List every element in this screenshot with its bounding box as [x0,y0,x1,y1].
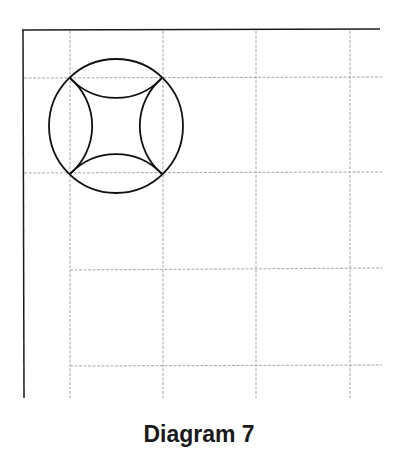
grid-horizontal-2 [24,172,382,173]
grid-horizontal-4 [70,365,382,366]
diagram-caption: Diagram 7 [0,421,398,448]
frame-left-line [23,30,24,398]
grid-horizontal-1 [24,77,382,78]
diagram-canvas [0,0,398,464]
grid-horizontal-3 [70,268,382,270]
frame-top-line [22,29,380,30]
